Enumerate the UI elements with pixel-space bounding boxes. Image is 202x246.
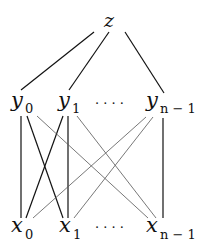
node-x0: x 0 xyxy=(11,213,33,242)
node-y1-sub: 1 xyxy=(72,101,80,116)
node-y1-var: y xyxy=(57,88,71,112)
node-x1-sub: 1 xyxy=(73,227,81,242)
node-y0: y 0 xyxy=(10,88,33,116)
middle-ellipsis: · · · · xyxy=(95,96,124,111)
node-xn-1: x n − 1 xyxy=(146,213,196,242)
node-x1-var: x xyxy=(59,213,71,237)
node-xn-1-sub: n − 1 xyxy=(160,227,196,242)
node-x0-var: x xyxy=(11,213,23,237)
edge-z-y0 xyxy=(21,32,94,90)
edges-y-to-x-light xyxy=(33,116,156,218)
node-y0-var: y xyxy=(10,88,24,112)
edge-yn-1-x1 xyxy=(74,117,153,218)
node-z-var: z xyxy=(103,9,115,31)
node-x0-sub: 0 xyxy=(25,227,33,242)
node-y1: y 1 xyxy=(57,88,80,116)
bottom-ellipsis: · · · · xyxy=(95,220,124,235)
edge-y1-xn-1 xyxy=(77,116,156,218)
node-x1: x 1 xyxy=(59,213,81,242)
node-y0-sub: 0 xyxy=(25,101,33,116)
edges-z-to-y xyxy=(21,32,164,93)
node-z: z xyxy=(103,9,115,31)
node-yn-1-sub: n − 1 xyxy=(160,101,196,116)
edge-z-y1 xyxy=(69,32,109,90)
node-xn-1-var: x xyxy=(146,213,158,237)
node-yn-1-var: y xyxy=(145,88,159,112)
edge-z-yn-1 xyxy=(125,32,164,93)
edge-y0-xn-1 xyxy=(37,116,148,218)
node-yn-1: y n − 1 xyxy=(145,88,196,116)
layered-graph-diagram: z y 0 y 1 · · · · y n − 1 x 0 x 1 · · · … xyxy=(0,0,202,246)
